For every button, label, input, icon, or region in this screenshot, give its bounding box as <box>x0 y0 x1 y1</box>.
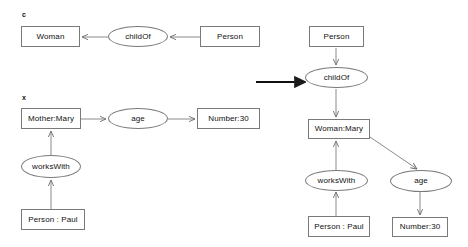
edge-womanmary-to-age <box>370 137 417 169</box>
node-label: childOf <box>324 74 350 82</box>
node-label: age <box>414 177 428 185</box>
node-label: Person <box>324 33 350 41</box>
node-label: Person : Paul <box>314 223 363 231</box>
node-r-age[interactable]: age <box>390 170 452 192</box>
node-label: worksWith <box>32 163 70 171</box>
node-r-number30[interactable]: Number:30 <box>392 217 448 237</box>
panel-tag-c: c <box>22 11 26 18</box>
node-l-workswith[interactable]: worksWith <box>21 155 81 178</box>
graph-transformation-figure: WomanchildOfPersonMother:MaryageNumber:3… <box>0 0 468 247</box>
node-label: Number:30 <box>400 223 440 231</box>
node-label: Woman:Mary <box>315 125 363 133</box>
node-l-mothermary[interactable]: Mother:Mary <box>21 108 81 129</box>
node-r-workswith[interactable]: worksWith <box>305 170 368 191</box>
node-label: Mother:Mary <box>28 115 74 123</box>
node-r-personpaul[interactable]: Person : Paul <box>308 216 370 237</box>
node-r-womanmary[interactable]: Woman:Mary <box>308 119 370 139</box>
node-label: age <box>131 115 145 123</box>
node-label: Person : Paul <box>28 216 77 224</box>
node-label: childOf <box>125 33 151 41</box>
node-l-age[interactable]: age <box>108 108 168 129</box>
node-r-childof[interactable]: childOf <box>305 67 368 88</box>
node-l-childof[interactable]: childOf <box>108 26 168 47</box>
node-l-person[interactable]: Person <box>200 26 260 47</box>
node-label: Woman <box>37 33 65 41</box>
node-l-personpaul[interactable]: Person : Paul <box>21 209 85 230</box>
panel-tag-x: x <box>22 94 26 101</box>
node-label: worksWith <box>318 177 356 185</box>
node-r-person[interactable]: Person <box>309 26 364 47</box>
node-label: Number:30 <box>208 115 248 123</box>
node-l-woman[interactable]: Woman <box>21 26 80 47</box>
node-l-number30[interactable]: Number:30 <box>197 108 260 129</box>
node-label: Person <box>217 33 243 41</box>
